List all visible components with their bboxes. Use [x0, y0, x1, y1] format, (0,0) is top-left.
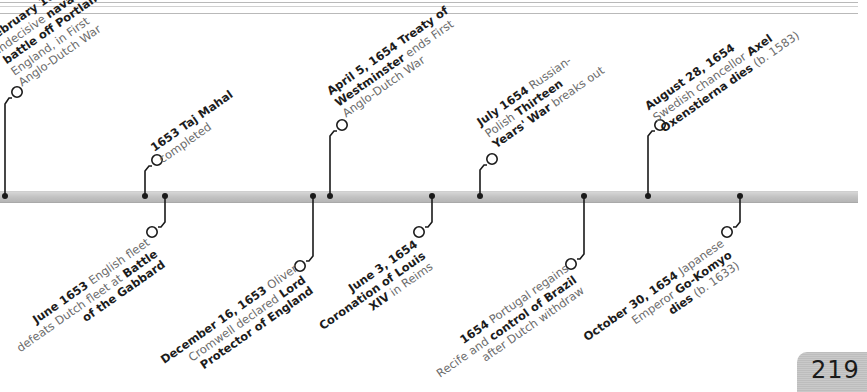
- connector-1653-taj: [142, 155, 162, 199]
- connector-oct-1654: [722, 193, 743, 237]
- connector-feb-1653: [2, 87, 22, 199]
- connector-jun-1654: [414, 193, 435, 237]
- connector-jul-1654: [477, 154, 497, 199]
- connector-dec-1653: [295, 193, 316, 271]
- connector-apr-1654: [327, 120, 347, 199]
- connector-aug-1654: [645, 120, 665, 199]
- connector-june-1653: [147, 193, 168, 237]
- connector-1654-portugal: [566, 193, 587, 269]
- page-number: 219: [811, 356, 860, 384]
